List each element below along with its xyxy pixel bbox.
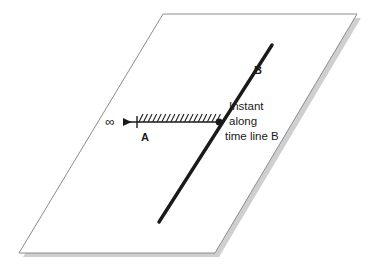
caption-line-1: Instant — [229, 100, 264, 112]
caption-line-2: along — [229, 115, 257, 127]
caption-line-3: time line B — [225, 130, 279, 142]
diagram-canvas: ∞ A B Instant along time line B — [0, 0, 376, 271]
infinity-symbol: ∞ — [105, 114, 114, 129]
spacetime-diagram: ∞ A B Instant along time line B — [0, 0, 376, 271]
label-b: B — [254, 64, 262, 76]
instant-dot — [216, 119, 223, 126]
plane-shape — [19, 14, 357, 253]
label-a: A — [141, 131, 149, 143]
